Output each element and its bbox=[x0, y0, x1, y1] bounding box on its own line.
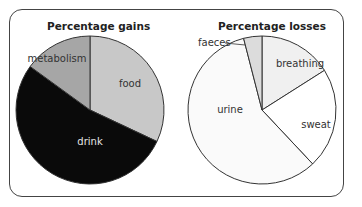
slice-label-breathing: breathing bbox=[276, 58, 324, 69]
slice-label-food: food bbox=[119, 78, 141, 89]
gains-pie: fooddrinkmetabolism bbox=[16, 36, 164, 184]
losses-pie: breathingsweaturinefaeces bbox=[188, 36, 336, 184]
pie-charts: fooddrinkmetabolism breathingsweaturinef… bbox=[0, 0, 362, 207]
slice-label-drink: drink bbox=[77, 136, 103, 147]
slice-label-urine: urine bbox=[217, 104, 243, 115]
slice-label-metabolism: metabolism bbox=[28, 53, 87, 64]
slice-label-sweat: sweat bbox=[301, 119, 331, 130]
slice-label-faeces: faeces bbox=[198, 37, 231, 48]
